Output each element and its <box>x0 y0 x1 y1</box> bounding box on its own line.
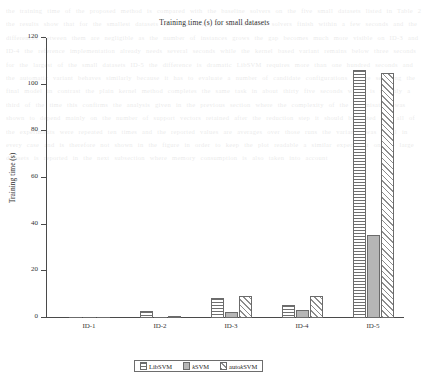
bar-id-2-autoksvm[interactable] <box>168 316 181 318</box>
y-axis-title: Training time (s) <box>8 38 20 318</box>
bar-group-id-4: ID-4 <box>273 38 331 318</box>
plot-area: 0 20 40 60 80 100 120 ID-1 <box>46 38 404 318</box>
legend-label-autoksvm: autokSVM <box>229 363 257 370</box>
y-tick-label-60: 60 <box>31 172 38 180</box>
bar-id-5-libsvm[interactable] <box>353 70 366 318</box>
chart-legend: LibSVM kSVM autokSVM <box>134 360 263 372</box>
diagonal-hatch-swatch-icon <box>220 362 227 370</box>
legend-label-ksvm: kSVM <box>192 363 209 370</box>
bar-chart-figure: Training time (s) for small datasets Tra… <box>0 0 429 378</box>
bar-id-1-ksvm[interactable] <box>83 317 96 318</box>
bar-id-3-ksvm[interactable] <box>225 312 238 318</box>
bars-layer: ID-1 ID-2 ID-3 <box>46 38 404 318</box>
bar-group-id-3: ID-3 <box>202 38 260 318</box>
y-tick-label-40: 40 <box>31 219 38 227</box>
legend-item-libsvm[interactable]: LibSVM <box>140 362 172 370</box>
y-tick-label-80: 80 <box>31 125 38 133</box>
y-tick-label-100: 100 <box>28 79 39 87</box>
solid-gray-swatch-icon <box>183 362 190 370</box>
bar-group-id-5: ID-5 <box>344 38 402 318</box>
legend-label-libsvm: LibSVM <box>149 363 172 370</box>
bar-id-2-ksvm[interactable] <box>154 317 167 318</box>
x-tick-label-id-1: ID-1 <box>60 322 118 330</box>
bar-group-id-2: ID-2 <box>131 38 189 318</box>
bar-id-4-libsvm[interactable] <box>282 305 295 318</box>
x-tick-label-id-5: ID-5 <box>344 322 402 330</box>
legend-item-ksvm[interactable]: kSVM <box>183 362 209 370</box>
bar-id-1-autoksvm[interactable] <box>97 317 110 318</box>
y-tick-label-0: 0 <box>35 312 39 320</box>
y-tick-label-120: 120 <box>28 32 39 40</box>
chart-title: Training time (s) for small datasets <box>0 18 429 27</box>
bar-id-4-ksvm[interactable] <box>296 310 309 318</box>
legend-item-autoksvm[interactable]: autokSVM <box>220 362 257 370</box>
bar-id-5-autoksvm[interactable] <box>381 73 394 318</box>
bar-id-5-ksvm[interactable] <box>367 235 380 318</box>
x-tick-label-id-4: ID-4 <box>273 322 331 330</box>
horizontal-lines-swatch-icon <box>140 362 147 370</box>
bar-id-4-autoksvm[interactable] <box>310 296 323 318</box>
bar-id-1-libsvm[interactable] <box>69 317 82 318</box>
bar-id-2-libsvm[interactable] <box>140 311 153 318</box>
bar-id-3-libsvm[interactable] <box>211 298 224 318</box>
bar-id-3-autoksvm[interactable] <box>239 296 252 318</box>
x-tick-label-id-2: ID-2 <box>131 322 189 330</box>
bar-group-id-1: ID-1 <box>60 38 118 318</box>
x-tick-label-id-3: ID-3 <box>202 322 260 330</box>
y-tick-label-20: 20 <box>31 265 38 273</box>
